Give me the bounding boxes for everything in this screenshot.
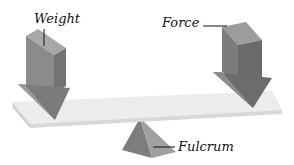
fulcrum-shape [122,118,176,158]
fulcrum-label: Fulcrum [178,140,234,153]
force-label: Force [162,16,199,29]
weight-label: Weight [34,12,80,25]
lever-diagram: Weight Force Fulcrum [0,0,294,165]
